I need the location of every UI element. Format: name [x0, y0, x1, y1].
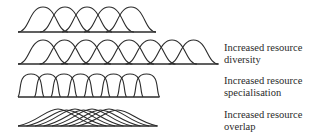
label-line-2: specialisation [224, 87, 302, 99]
label-line-1: Increased resource [224, 75, 302, 87]
label-resource-overlap: Increased resource overlap [224, 109, 302, 133]
row-specialisation-curves [18, 74, 160, 97]
row-baseline-curves [18, 7, 156, 32]
label-line-1: Increased resource [224, 109, 302, 121]
label-resource-diversity: Increased resource diversity [224, 42, 302, 66]
row-overlap-curves [18, 109, 158, 126]
label-line-1: Increased resource [224, 42, 302, 54]
label-line-2: diversity [224, 54, 302, 66]
label-line-2: overlap [224, 121, 302, 133]
row-diversity-curves [18, 40, 219, 64]
label-resource-specialisation: Increased resource specialisation [224, 75, 302, 99]
